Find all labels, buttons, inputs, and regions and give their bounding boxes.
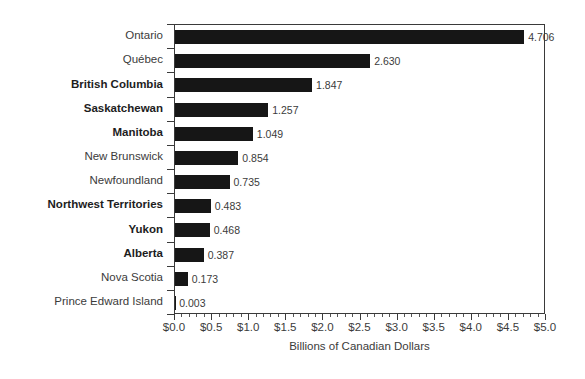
- category-label: British Columbia: [71, 79, 163, 91]
- x-axis-minor-tick: [411, 314, 412, 317]
- y-axis-tick: [167, 48, 174, 49]
- bar-value-label: 1.257: [268, 104, 298, 115]
- x-axis-minor-tick: [196, 314, 197, 317]
- bar: [175, 78, 312, 92]
- y-axis-tick: [167, 121, 174, 122]
- bar: [175, 54, 370, 68]
- bar-value-label: 2.630: [370, 56, 400, 67]
- x-axis-minor-tick: [538, 314, 539, 317]
- category-label: Yukon: [128, 224, 163, 236]
- x-axis-minor-tick: [389, 314, 390, 317]
- category-label-cell: British Columbia: [0, 72, 168, 96]
- category-label-cell: Nova Scotia: [0, 266, 168, 290]
- x-axis-tick-label: $3.5: [422, 322, 444, 334]
- x-axis-minor-tick: [337, 314, 338, 317]
- bar-value-label: 0.483: [211, 201, 241, 212]
- y-axis-tick: [167, 193, 174, 194]
- x-axis-minor-tick: [241, 314, 242, 317]
- x-axis-minor-tick: [419, 314, 420, 317]
- bar: [175, 199, 211, 213]
- x-axis-minor-tick: [189, 314, 190, 317]
- category-label-cell: Ontario: [0, 24, 168, 48]
- y-axis-tick: [167, 290, 174, 291]
- y-axis-tick: [167, 145, 174, 146]
- x-axis-major-tick: [322, 314, 323, 320]
- x-axis-minor-tick: [233, 314, 234, 317]
- x-axis-minor-tick: [204, 314, 205, 317]
- y-axis-tick: [167, 314, 174, 315]
- x-axis-major-tick: [211, 314, 212, 320]
- bar: [175, 175, 230, 189]
- x-axis-major-tick: [471, 314, 472, 320]
- category-label-cell: Alberta: [0, 242, 168, 266]
- bar-row: 1.049: [175, 122, 544, 146]
- category-label: Manitoba: [113, 127, 163, 139]
- plot-area: 4.7062.6301.8471.2571.0490.8540.7350.483…: [174, 24, 545, 314]
- bar-row: 4.706: [175, 25, 544, 49]
- x-axis-major-tick: [545, 314, 546, 320]
- bar-row: 0.003: [175, 291, 544, 315]
- x-axis-title: Billions of Canadian Dollars: [174, 341, 545, 353]
- y-axis-tick: [167, 169, 174, 170]
- x-axis-minor-tick: [270, 314, 271, 317]
- y-axis-tick: [167, 242, 174, 243]
- x-axis-minor-tick: [530, 314, 531, 317]
- bar: [175, 223, 210, 237]
- x-axis-tick-label: $2.5: [348, 322, 370, 334]
- x-axis-minor-tick: [352, 314, 353, 317]
- bar: [175, 103, 268, 117]
- x-axis-major-tick: [360, 314, 361, 320]
- category-label: Northwest Territories: [48, 199, 163, 211]
- bar-row: 0.387: [175, 243, 544, 267]
- x-axis-minor-tick: [278, 314, 279, 317]
- category-label: Ontario: [125, 30, 163, 42]
- x-axis-minor-tick: [404, 314, 405, 317]
- category-label: Alberta: [123, 248, 163, 260]
- x-axis-major-tick: [508, 314, 509, 320]
- bar-chart: OntarioQuébecBritish ColumbiaSaskatchewa…: [0, 0, 585, 379]
- x-axis-minor-tick: [263, 314, 264, 317]
- x-axis-minor-tick: [500, 314, 501, 317]
- y-axis-tick: [167, 217, 174, 218]
- x-axis-minor-tick: [463, 314, 464, 317]
- x-axis-minor-tick: [523, 314, 524, 317]
- category-label: Nova Scotia: [101, 272, 163, 284]
- x-axis-tick-label: $0.5: [200, 322, 222, 334]
- x-axis-major-tick: [434, 314, 435, 320]
- bar-value-label: 0.854: [238, 153, 268, 164]
- x-axis-minor-tick: [426, 314, 427, 317]
- category-axis-labels: OntarioQuébecBritish ColumbiaSaskatchewa…: [0, 24, 168, 314]
- x-axis-minor-tick: [367, 314, 368, 317]
- x-axis-minor-tick: [515, 314, 516, 317]
- category-label-cell: Newfoundland: [0, 169, 168, 193]
- x-axis-minor-tick: [493, 314, 494, 317]
- category-label: New Brunswick: [84, 151, 163, 163]
- bar-value-label: 1.847: [312, 80, 342, 91]
- x-axis-minor-tick: [308, 314, 309, 317]
- x-axis-minor-tick: [226, 314, 227, 317]
- x-axis-tick-label: $0.0: [163, 322, 185, 334]
- x-axis-minor-tick: [219, 314, 220, 317]
- category-label: Prince Edward Island: [54, 296, 163, 308]
- bar-row: 0.735: [175, 170, 544, 194]
- x-axis-tick-label: $1.0: [237, 322, 259, 334]
- x-axis-minor-tick: [330, 314, 331, 317]
- bar-row: 1.257: [175, 98, 544, 122]
- x-axis-tick-label: $5.0: [534, 322, 556, 334]
- x-axis-tick-label: $4.0: [460, 322, 482, 334]
- bar-row: 1.847: [175, 73, 544, 97]
- category-label: Newfoundland: [89, 175, 163, 187]
- bar: [175, 248, 204, 262]
- x-axis-major-tick: [285, 314, 286, 320]
- category-label-cell: Saskatchewan: [0, 97, 168, 121]
- bar-value-label: 0.468: [210, 225, 240, 236]
- bar-value-label: 0.173: [188, 273, 218, 284]
- bar-value-label: 4.706: [524, 32, 554, 43]
- x-axis-major-tick: [397, 314, 398, 320]
- bar-row: 0.173: [175, 267, 544, 291]
- category-label-cell: Northwest Territories: [0, 193, 168, 217]
- x-axis-minor-tick: [181, 314, 182, 317]
- bar-row: 2.630: [175, 49, 544, 73]
- x-axis-tick-label: $2.0: [311, 322, 333, 334]
- bar-value-label: 1.049: [253, 128, 283, 139]
